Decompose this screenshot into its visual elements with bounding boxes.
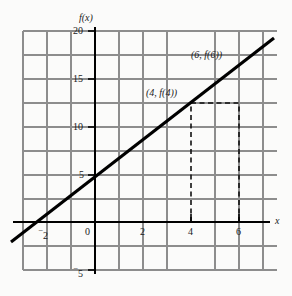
x-tick-label-6: 6 (236, 227, 241, 237)
point-label-4: (4, f(4)) (146, 88, 177, 98)
y-tick-label-5: 5 (79, 170, 84, 180)
origin-label: 0 (85, 227, 90, 237)
figure-background (0, 0, 292, 296)
x-tick-label-2: 2 (140, 227, 145, 237)
x-tick-value-2: 2 (43, 230, 48, 241)
plot-area (0, 0, 292, 296)
x-tick-label-neg2: ⁻2 (38, 227, 48, 241)
y-tick-label-20: 20 (73, 26, 83, 36)
x-axis-label: x (275, 216, 279, 226)
y-tick-label-neg5: ⁻5 (73, 265, 83, 279)
y-tick-value-5: 5 (78, 268, 83, 279)
y-tick-label-10: 10 (73, 122, 83, 132)
point-label-6: (6, f(6)) (191, 50, 222, 60)
x-tick-label-4: 4 (188, 227, 193, 237)
y-tick-label-15: 15 (73, 74, 83, 84)
y-axis-label: f(x) (79, 13, 93, 23)
graph-figure: f(x) x 20 15 10 5 ⁻5 0 ⁻2 2 4 6 (4, f(4)… (0, 0, 292, 296)
